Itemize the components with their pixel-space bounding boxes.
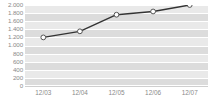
y-tick-label: 1.800 bbox=[0, 10, 23, 16]
line-chart-widget: 2.0001.8001.6001.4001.2001.0008006004002… bbox=[0, 0, 213, 99]
series-line bbox=[43, 5, 189, 37]
data-point-marker bbox=[114, 12, 119, 17]
y-tick-label: 2.000 bbox=[0, 2, 23, 8]
y-tick-label: 1.200 bbox=[0, 34, 23, 40]
data-point-marker bbox=[41, 35, 46, 40]
plot-area bbox=[25, 5, 208, 86]
data-point-marker bbox=[187, 5, 192, 7]
y-axis: 2.0001.8001.6001.4001.2001.0008006004002… bbox=[0, 0, 23, 91]
x-tick-label: 12/05 bbox=[109, 89, 125, 97]
x-tick-label: 12/07 bbox=[182, 89, 198, 97]
y-tick-label: 400 bbox=[0, 67, 23, 73]
series-plot bbox=[25, 5, 208, 86]
x-axis: 12/0312/0412/0512/0612/07 bbox=[25, 89, 208, 99]
x-tick-label: 12/03 bbox=[35, 89, 51, 97]
data-point-marker bbox=[78, 29, 83, 34]
x-tick-label: 12/04 bbox=[72, 89, 88, 97]
y-tick-label: 1.400 bbox=[0, 26, 23, 32]
y-tick-label: 600 bbox=[0, 59, 23, 65]
x-axis-baseline bbox=[25, 86, 208, 87]
y-tick-label: 800 bbox=[0, 51, 23, 57]
data-point-marker bbox=[151, 9, 156, 14]
x-tick-label: 12/06 bbox=[145, 89, 161, 97]
y-tick-label: 1.000 bbox=[0, 42, 23, 48]
y-tick-label: 1.600 bbox=[0, 18, 23, 24]
y-tick-label: 0 bbox=[0, 83, 23, 89]
y-tick-label: 200 bbox=[0, 75, 23, 81]
